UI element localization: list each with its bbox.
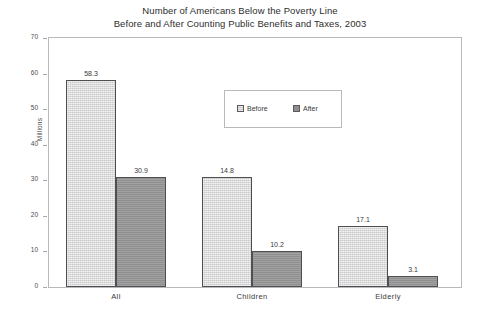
- y-axis-tick-label: 60: [31, 69, 38, 76]
- bar-all-after: [116, 177, 166, 287]
- legend-item-before: Before: [237, 105, 268, 112]
- y-axis-tick-mark: [43, 180, 47, 181]
- y-axis-tick-label: 40: [31, 140, 38, 147]
- bars-layer: 58.330.914.810.217.13.1: [48, 37, 462, 288]
- y-axis-tick-label: 10: [31, 246, 38, 253]
- y-axis-tick-mark: [43, 251, 47, 252]
- y-axis-tick-mark: [43, 287, 47, 288]
- y-axis-tick-label: 70: [31, 33, 38, 40]
- chart-legend: Before After: [224, 90, 342, 128]
- y-axis-tick-mark: [43, 109, 47, 110]
- legend-label-before: Before: [247, 105, 268, 112]
- chart-title-line-1: Number of Americans Below the Poverty Li…: [0, 4, 480, 17]
- bar-value-label: 10.2: [252, 241, 302, 248]
- bar-value-label: 3.1: [388, 266, 438, 273]
- bar-elderly-before: [338, 226, 388, 287]
- legend-swatch-before-icon: [237, 105, 244, 112]
- y-axis-title: Millions: [36, 90, 43, 170]
- chart-title: Number of Americans Below the Poverty Li…: [0, 4, 480, 30]
- bar-all-before: [66, 80, 116, 287]
- y-axis-tick-mark: [43, 145, 47, 146]
- bar-value-label: 30.9: [116, 167, 166, 174]
- y-axis-tick-label: 0: [34, 282, 38, 289]
- y-axis-tick-label: 30: [31, 175, 38, 182]
- bar-children-after: [252, 251, 302, 287]
- y-axis-tick-mark: [43, 216, 47, 217]
- legend-item-after: After: [293, 105, 318, 112]
- legend-label-after: After: [303, 105, 318, 112]
- legend-swatch-after-icon: [293, 105, 300, 112]
- bar-value-label: 58.3: [66, 70, 116, 77]
- y-axis-tick-label: 20: [31, 211, 38, 218]
- x-axis-label-elderly: Elderly: [338, 292, 438, 301]
- bar-value-label: 17.1: [338, 216, 388, 223]
- y-axis-tick-label: 50: [31, 104, 38, 111]
- bar-elderly-after: [388, 276, 438, 287]
- x-axis-label-children: Children: [202, 292, 302, 301]
- bar-children-before: [202, 177, 252, 287]
- y-axis-tick-mark: [43, 38, 47, 39]
- bar-value-label: 14.8: [202, 167, 252, 174]
- chart-title-line-2: Before and After Counting Public Benefit…: [0, 17, 480, 30]
- x-axis-label-all: All: [66, 292, 166, 301]
- bar-chart: Number of Americans Below the Poverty Li…: [0, 0, 480, 309]
- y-axis-tick-mark: [43, 74, 47, 75]
